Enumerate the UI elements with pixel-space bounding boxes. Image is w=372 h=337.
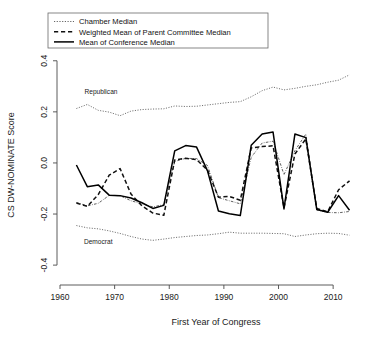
chart-legend: Chamber MedianWeighted Mean of Parent Co… <box>48 13 268 48</box>
x-tick-label: 1960 <box>51 292 70 302</box>
x-tick-label: 2000 <box>269 292 288 302</box>
legend-label-2: Mean of Conference Median <box>79 38 175 47</box>
y-axis-title: CS DW-NOMINATE Score <box>6 112 16 218</box>
annotation-democrat: Democrat <box>84 238 113 245</box>
x-tick-label: 1990 <box>214 292 233 302</box>
series-line-mean-of-conference-median <box>76 132 349 216</box>
x-axis-title: First Year of Congress <box>171 317 261 327</box>
x-tick-label: 2010 <box>324 292 343 302</box>
y-tick-label: 0.0 <box>39 157 49 169</box>
chart-figure: 196019701980199020002010-0.4-0.20.00.20.… <box>0 0 372 337</box>
legend-label-1: Weighted Mean of Parent Committee Median <box>79 28 231 37</box>
y-tick-label: 0.4 <box>39 55 49 67</box>
series-line-chamber-median <box>76 134 349 213</box>
data-series-group <box>76 75 349 241</box>
chart-canvas: 196019701980199020002010-0.4-0.20.00.20.… <box>0 0 372 337</box>
annotation-republican: Republican <box>84 88 117 96</box>
x-tick-label: 1980 <box>160 292 179 302</box>
y-tick-label: -0.2 <box>39 206 49 221</box>
x-tick-label: 1970 <box>105 292 124 302</box>
y-tick-label: 0.2 <box>39 106 49 118</box>
series-line-democrat <box>76 226 349 241</box>
legend-label-0: Chamber Median <box>79 17 137 26</box>
y-tick-label: -0.4 <box>39 258 49 273</box>
plot-annotations: RepublicanDemocrat <box>84 88 118 245</box>
